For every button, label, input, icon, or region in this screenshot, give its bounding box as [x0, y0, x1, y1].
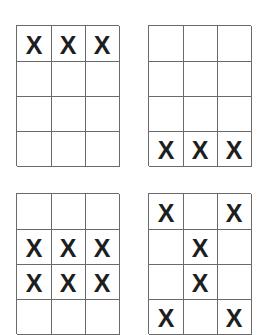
grid-cell: X — [17, 26, 52, 62]
grid-cell: X — [51, 264, 86, 300]
grid-cell: X — [85, 229, 120, 265]
x-mark: X — [158, 135, 175, 163]
grid-cell — [51, 194, 86, 230]
grid-cell — [51, 96, 86, 132]
grid-cell — [85, 61, 120, 97]
grid-cell: X — [17, 264, 52, 300]
grid-cell — [85, 194, 120, 230]
x-mark: X — [226, 135, 243, 163]
x-mark: X — [158, 198, 175, 226]
x-mark: X — [60, 30, 77, 58]
x-mark: X — [94, 233, 111, 261]
grid-cell: X — [183, 264, 218, 300]
grid-cell — [51, 61, 86, 97]
x-mark: X — [192, 135, 209, 163]
grid-cell: X — [149, 131, 184, 167]
grid-cell — [217, 264, 252, 300]
grid-cell — [183, 299, 218, 335]
pattern-grid-bottom-left: XXXXXX — [16, 193, 119, 334]
x-mark: X — [94, 30, 111, 58]
grid-cell — [17, 131, 52, 167]
grid-cell — [51, 131, 86, 167]
grid-cell: X — [183, 229, 218, 265]
grid-cell — [183, 194, 218, 230]
grid-cell — [51, 299, 86, 335]
grid-cell — [17, 96, 52, 132]
grid-cell: X — [183, 131, 218, 167]
pattern-grid-bottom-right: XXXXXX — [148, 193, 251, 334]
x-mark: X — [60, 268, 77, 296]
grid-cell — [17, 61, 52, 97]
x-mark: X — [26, 30, 43, 58]
x-mark: X — [26, 233, 43, 261]
grid-cell — [149, 229, 184, 265]
grid-cell — [149, 26, 184, 62]
grid-cell: X — [149, 194, 184, 230]
grid-cell: X — [85, 26, 120, 62]
x-mark: X — [26, 268, 43, 296]
grid-cell: X — [51, 26, 86, 62]
grid-cell — [17, 299, 52, 335]
grid-cell — [149, 61, 184, 97]
grid-cell — [85, 299, 120, 335]
grid-cell — [17, 194, 52, 230]
grid-cell — [149, 96, 184, 132]
pattern-grid-top-left: XXX — [16, 25, 119, 166]
grid-cell: X — [217, 131, 252, 167]
x-mark: X — [158, 303, 175, 331]
x-mark: X — [192, 268, 209, 296]
grid-cell — [217, 26, 252, 62]
grid-cell — [183, 96, 218, 132]
grid-cell: X — [85, 264, 120, 300]
grid-cell: X — [217, 194, 252, 230]
x-mark: X — [192, 233, 209, 261]
pattern-grid-top-right: XXX — [148, 25, 251, 166]
grid-cell: X — [51, 229, 86, 265]
grid-cell — [217, 229, 252, 265]
grid-cell — [149, 264, 184, 300]
grid-cell — [217, 96, 252, 132]
grid-cell: X — [17, 229, 52, 265]
grid-cell — [217, 61, 252, 97]
x-mark: X — [226, 198, 243, 226]
grid-cell: X — [149, 299, 184, 335]
x-mark: X — [60, 233, 77, 261]
grid-cell — [183, 26, 218, 62]
x-mark: X — [226, 303, 243, 331]
x-mark: X — [94, 268, 111, 296]
grid-cell — [85, 131, 120, 167]
grid-cell — [85, 96, 120, 132]
grid-cell: X — [217, 299, 252, 335]
grid-cell — [183, 61, 218, 97]
